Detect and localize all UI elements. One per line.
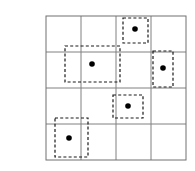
data-point xyxy=(160,65,166,71)
plot-background xyxy=(0,0,195,171)
data-point xyxy=(66,135,72,141)
scatter-grid-plot xyxy=(0,0,195,171)
data-point xyxy=(125,103,131,109)
data-point xyxy=(132,26,138,32)
data-point xyxy=(89,61,95,67)
figure-root xyxy=(0,0,195,171)
